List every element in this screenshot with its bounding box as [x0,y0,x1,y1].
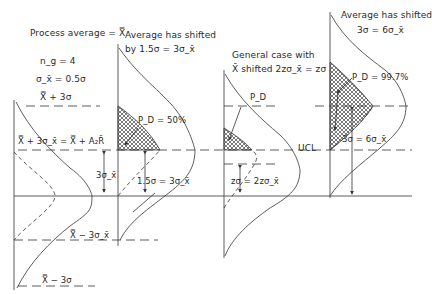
panel3-shift-label: zσ = 2zσ_x̄ [231,176,279,186]
panel2-title-line1: Average has shifted [125,30,216,40]
panel4-title-line2: 3σ = 6σ_x̄ [357,25,404,35]
panel1-title: Process average = X̿ [30,28,125,38]
panel1-individual-curve [16,102,92,288]
panel4-pd-label: P_D = 99.7% [352,72,409,82]
panel1-sigma-label: σ_x̄ = 0.5σ [36,74,86,84]
panel2-shift-label: 1.5σ = 3σ_x̄ [137,176,190,186]
panel1-lcl-label: X̿ − 3σ_x̄ [70,230,109,240]
panel4-shift-label: 3σ = 6σ_x̄ [342,134,386,144]
panel1-n-label: n_g = 4 [40,56,76,66]
panel1-lower3sigma-label: X̿ − 3σ [42,275,72,285]
panel4-title-line1: Average has shifted [341,10,432,20]
panel1-upper3sigma-label: X̿ + 3σ [40,92,71,102]
panel3-title-line1: General case with [232,50,315,60]
panel2-title-line2: by 1.5σ = 3σ_x̄ [125,44,195,54]
panel1-ucl-label: X̿ + 3σ_x̄ = X̿ + A₂R̄ [18,136,104,146]
panel3-ucl-label: UCL [298,143,316,153]
panel3-pd-label: P_D [250,92,266,102]
panel2-hatched-area [118,106,160,150]
panel1-gap-label: 3σ_x̄ [96,170,116,180]
panel3-title-line2: X̄ shifted 2zσ_x̄ = zσ [232,64,326,74]
panel3-hatched-area [224,128,252,150]
panel2-pd-label: P_D = 50% [138,115,186,125]
